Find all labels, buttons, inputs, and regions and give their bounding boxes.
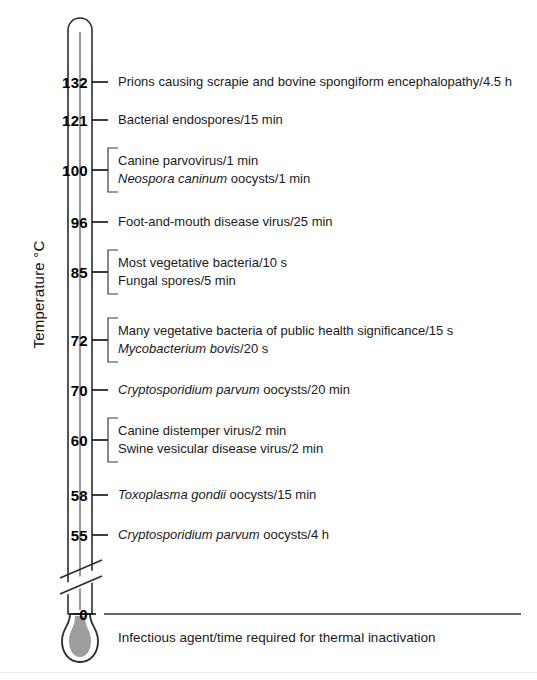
species-name: Mycobacterium bovis [118,341,240,356]
tick-label-132: 132 [34,74,88,91]
tick-label-72: 72 [34,332,88,349]
agent-text: Fungal spores/5 min [118,273,236,288]
entry-line: Most vegetative bacteria/10 s [118,254,287,272]
entry-line: Prions causing scrapie and bovine spongi… [118,73,512,91]
thermal-inactivation-figure: Temperature °C [0,0,537,680]
agent-text: Canine distemper virus/2 min [118,423,286,438]
agent-text: oocysts/1 min [227,171,310,186]
entry-line: Many vegetative bacteria of public healt… [118,322,453,340]
agent-text: oocysts/4 h [260,527,329,542]
tick-label-96: 96 [34,214,88,231]
agent-text: oocysts/15 min [226,487,316,502]
tick-label-60: 60 [34,432,88,449]
species-name: Neospora caninum [118,171,227,186]
thermometer-tube [68,18,92,614]
entry-brackets [96,148,118,462]
entry-line: Swine vesicular disease virus/2 min [118,440,323,458]
entry-line: Canine distemper virus/2 min [118,422,323,440]
entry-row-132: Prions causing scrapie and bovine spongi… [118,73,512,91]
entry-line: Toxoplasma gondii oocysts/15 min [118,486,316,504]
entry-row-121: Bacterial endospores/15 min [118,111,283,129]
x-axis-caption: Infectious agent/time required for therm… [118,630,435,645]
entry-line: Canine parvovirus/1 min [118,152,310,170]
entry-line: Neospora caninum oocysts/1 min [118,170,310,188]
tick-label-0: 0 [34,606,88,623]
agent-text: Swine vesicular disease virus/2 min [118,441,323,456]
axis-break-mark [60,560,102,598]
agent-text: oocysts/20 min [260,382,350,397]
page-bottom-rule [0,672,537,673]
entry-row-96: Foot-and-mouth disease virus/25 min [118,213,333,231]
entry-row-58: Toxoplasma gondii oocysts/15 min [118,486,316,504]
tick-label-121: 121 [34,112,88,129]
tick-label-100: 100 [34,162,88,179]
agent-text: Prions causing scrapie and bovine spongi… [118,74,512,89]
tick-label-85: 85 [34,264,88,281]
agent-text: Canine parvovirus/1 min [118,153,258,168]
entry-row-60: Canine distemper virus/2 minSwine vesicu… [118,422,323,458]
agent-text: /20 s [240,341,268,356]
agent-text: Foot-and-mouth disease virus/25 min [118,214,333,229]
entry-line: Cryptosporidium parvum oocysts/4 h [118,526,329,544]
tick-label-70: 70 [34,382,88,399]
tick-label-55: 55 [34,527,88,544]
agent-text: Most vegetative bacteria/10 s [118,255,287,270]
entry-line: Foot-and-mouth disease virus/25 min [118,213,333,231]
species-name: Cryptosporidium parvum [118,527,260,542]
agent-text: Many vegetative bacteria of public healt… [118,323,453,338]
species-name: Cryptosporidium parvum [118,382,260,397]
entry-row-70: Cryptosporidium parvum oocysts/20 min [118,381,350,399]
entry-row-100: Canine parvovirus/1 minNeospora caninum … [118,152,310,188]
entry-row-55: Cryptosporidium parvum oocysts/4 h [118,526,329,544]
tick-label-58: 58 [34,487,88,504]
entry-row-72: Many vegetative bacteria of public healt… [118,322,453,358]
entry-row-85: Most vegetative bacteria/10 sFungal spor… [118,254,287,290]
entry-line: Bacterial endospores/15 min [118,111,283,129]
agent-text: Bacterial endospores/15 min [118,112,283,127]
entry-line: Mycobacterium bovis/20 s [118,340,453,358]
entry-line: Fungal spores/5 min [118,272,287,290]
entry-line: Cryptosporidium parvum oocysts/20 min [118,381,350,399]
species-name: Toxoplasma gondii [118,487,226,502]
